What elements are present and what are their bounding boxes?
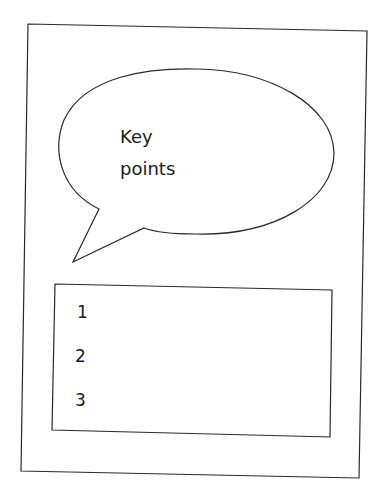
key-points-list-box [52, 284, 332, 437]
list-item-2: 2 [75, 348, 86, 365]
list-item-1: 1 [77, 304, 88, 321]
list-item-3: 3 [75, 392, 86, 409]
bubble-text-line-2: points [120, 160, 175, 178]
speech-bubble [59, 69, 334, 262]
diagram-canvas [0, 0, 389, 503]
bubble-text-line-1: Key [120, 128, 153, 146]
